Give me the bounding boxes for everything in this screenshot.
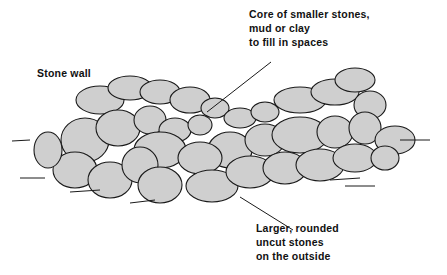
outside-leader-line: [240, 197, 293, 230]
stone-wall-illustration: [0, 0, 447, 275]
